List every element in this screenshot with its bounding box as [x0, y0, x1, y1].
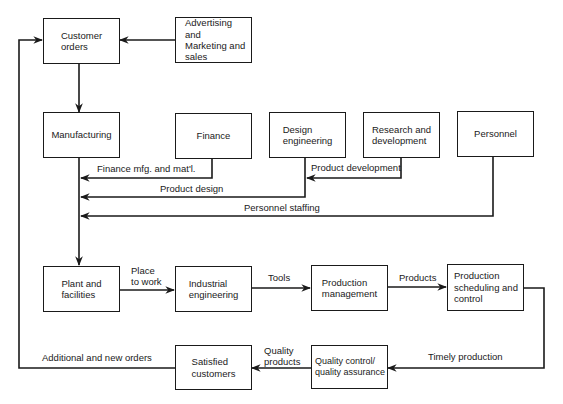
- edge-label-personnel-staffing: Personnel staffing: [244, 203, 320, 214]
- edge-label-timely-production: Timely production: [428, 352, 503, 363]
- box-research-development: Research and development: [363, 112, 440, 158]
- edge-label-products: Products: [399, 273, 437, 284]
- box-label: Research and development: [372, 124, 431, 147]
- edge-label-place-to-work: Place to work: [131, 266, 162, 288]
- edge-label-quality-products: Quality products: [264, 346, 300, 368]
- box-plant-facilities: Plant and facilities: [43, 266, 120, 312]
- box-label: Industrial engineering: [189, 278, 239, 301]
- edge-label-tools: Tools: [268, 273, 290, 284]
- box-label: Personnel: [474, 128, 517, 139]
- box-satisfied-customers: Satisfied customers: [175, 345, 252, 390]
- edge-label-additional-orders: Additional and new orders: [42, 353, 152, 364]
- box-label: Finance: [197, 130, 231, 141]
- box-label: Customer orders: [61, 30, 102, 53]
- box-design-engineering: Design engineering: [269, 112, 346, 158]
- box-quality-control: Quality control/ quality assurance: [311, 345, 388, 389]
- box-personnel: Personnel: [457, 111, 534, 157]
- box-customer-orders: Customer orders: [43, 18, 120, 64]
- edge-label-product-development: Product development: [311, 163, 401, 174]
- box-label: Manufacturing: [51, 129, 111, 140]
- box-label: Production management: [322, 277, 377, 300]
- box-advertising: Advertising and Marketing and sales: [175, 17, 252, 63]
- box-production-management: Production management: [311, 265, 388, 311]
- box-production-scheduling: Production scheduling and control: [447, 264, 524, 311]
- box-manufacturing: Manufacturing: [43, 112, 120, 158]
- box-label: Satisfied customers: [192, 356, 236, 379]
- box-finance: Finance: [175, 113, 252, 159]
- box-label: Advertising and Marketing and sales: [185, 17, 245, 63]
- box-label: Design engineering: [283, 124, 333, 147]
- box-label: Production scheduling and control: [454, 270, 518, 304]
- edge-label-product-design: Product design: [160, 184, 223, 195]
- arrow-satisfied-to-orders: [19, 40, 175, 368]
- box-industrial-engineering: Industrial engineering: [175, 266, 252, 312]
- box-label: Plant and facilities: [61, 278, 101, 301]
- box-label: Quality control/ quality assurance: [315, 356, 385, 378]
- edge-label-finance: Finance mfg. and mat'l.: [97, 164, 195, 175]
